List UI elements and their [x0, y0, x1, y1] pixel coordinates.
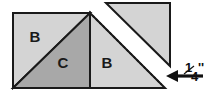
- measurement-unit-mark: '': [198, 60, 204, 75]
- piece-b-right-label: B: [102, 54, 113, 71]
- piece-c-center-label: C: [58, 54, 69, 71]
- diagram-canvas: B C B 1 4 '': [0, 0, 217, 94]
- piece-b-upper-left-label: B: [30, 28, 41, 45]
- seam-allowance-diagram: B C B 1 4 '': [0, 0, 217, 94]
